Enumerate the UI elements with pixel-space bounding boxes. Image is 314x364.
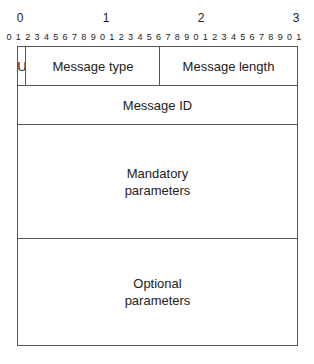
bit-minor-5: 5: [53, 32, 58, 42]
message-length-field: Message length: [160, 47, 297, 86]
bit-minor-22: 2: [212, 32, 217, 42]
bit-minor-19: 9: [184, 32, 189, 42]
bit-minor-20: 0: [193, 32, 198, 42]
bit-minor-17: 7: [165, 32, 170, 42]
bit-minor-28: 8: [268, 32, 273, 42]
bit-minor-12: 2: [119, 32, 124, 42]
optional-label-line2: parameters: [125, 292, 191, 309]
bit-ruler-minor: 01234567890123456789012345678901: [0, 32, 314, 44]
bit-major-1: 1: [103, 11, 110, 25]
bit-minor-29: 9: [278, 32, 283, 42]
bit-minor-30: 0: [287, 32, 292, 42]
bit-major-0: 0: [17, 11, 24, 25]
bit-major-2: 2: [198, 11, 205, 25]
bit-minor-2: 2: [25, 32, 30, 42]
bit-minor-24: 4: [231, 32, 236, 42]
bit-minor-7: 7: [72, 32, 77, 42]
bit-minor-21: 1: [203, 32, 208, 42]
bit-minor-31: 1: [296, 32, 301, 42]
bit-minor-18: 8: [175, 32, 180, 42]
bit-minor-14: 4: [137, 32, 142, 42]
bit-minor-3: 3: [35, 32, 40, 42]
bit-minor-0: 0: [6, 32, 11, 42]
message-format-diagram: U Message type Message length Message ID…: [17, 46, 298, 346]
bit-minor-13: 3: [128, 32, 133, 42]
bit-minor-26: 6: [250, 32, 255, 42]
mandatory-label-line2: parameters: [125, 182, 191, 199]
bit-major-3: 3: [293, 11, 300, 25]
bit-minor-23: 3: [222, 32, 227, 42]
bit-minor-8: 8: [81, 32, 86, 42]
bit-minor-27: 7: [259, 32, 264, 42]
bit-minor-1: 1: [16, 32, 21, 42]
bit-minor-9: 9: [91, 32, 96, 42]
mandatory-parameters-field: Mandatory parameters: [18, 125, 297, 239]
bit-minor-15: 5: [147, 32, 152, 42]
optional-parameters-field: Optional parameters: [18, 239, 297, 345]
bit-minor-25: 5: [240, 32, 245, 42]
optional-label-line1: Optional: [133, 275, 181, 292]
bit-minor-11: 1: [109, 32, 114, 42]
mandatory-label-line1: Mandatory: [127, 165, 188, 182]
message-id-field: Message ID: [18, 86, 297, 125]
message-type-field: Message type: [26, 47, 160, 86]
bit-minor-4: 4: [44, 32, 49, 42]
bit-minor-10: 0: [100, 32, 105, 42]
bit-minor-6: 6: [63, 32, 68, 42]
bit-minor-16: 6: [156, 32, 161, 42]
